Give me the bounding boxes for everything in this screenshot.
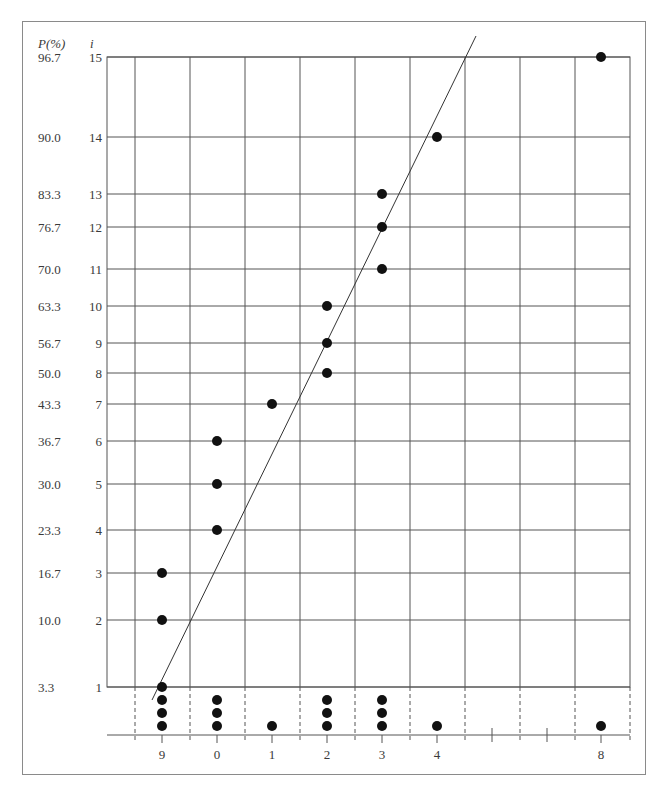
y-tick-label-rank: 11 — [89, 262, 102, 277]
y-tick-label-rank: 10 — [89, 299, 102, 314]
dot-plot-dot — [212, 708, 222, 718]
data-point — [377, 222, 387, 232]
x-tick-label: 3 — [379, 747, 386, 762]
x-tick-label: 9 — [159, 747, 166, 762]
fit-line — [152, 36, 476, 700]
axis-labels: P(%) i 3.3110.0216.7323.3430.0536.7643.3… — [37, 36, 604, 762]
x-tick-label: 8 — [598, 747, 605, 762]
grid-border — [107, 57, 630, 687]
dot-plot-dot — [322, 695, 332, 705]
dot-plot-dot — [322, 721, 332, 731]
data-point — [212, 525, 222, 535]
y-tick-label-rank: 9 — [96, 336, 103, 351]
dot-plot-dot — [377, 708, 387, 718]
dot-plot-dot — [596, 721, 606, 731]
data-point — [212, 479, 222, 489]
y-tick-label-percent: 3.3 — [38, 680, 54, 695]
grid-lines — [107, 57, 630, 687]
data-point — [267, 399, 277, 409]
y-tick-label-percent: 10.0 — [38, 613, 61, 628]
y-tick-label-rank: 6 — [96, 434, 103, 449]
dot-plot-dot — [157, 682, 167, 692]
y-tick-label-rank: 15 — [89, 50, 102, 65]
data-point — [157, 615, 167, 625]
y-tick-label-rank: 7 — [96, 397, 103, 412]
y-tick-label-rank: 8 — [96, 366, 103, 381]
data-point — [596, 52, 606, 62]
fit-line-segment — [152, 36, 476, 700]
y-tick-label-rank: 14 — [89, 130, 103, 145]
x-tick-label: 2 — [324, 747, 331, 762]
y-tick-label-percent: 96.7 — [38, 50, 61, 65]
dot-plot-dot — [377, 721, 387, 731]
data-points — [157, 52, 606, 625]
dot-plot-axis — [107, 728, 630, 743]
y-tick-label-percent: 70.0 — [38, 262, 61, 277]
dot-plot-dot — [157, 708, 167, 718]
y-tick-label-percent: 30.0 — [38, 477, 61, 492]
y-tick-label-percent: 56.7 — [38, 336, 61, 351]
dot-plot-dot — [157, 695, 167, 705]
y-tick-label-percent: 36.7 — [38, 434, 61, 449]
y-axis-title-rank: i — [90, 36, 94, 51]
y-tick-label-rank: 3 — [96, 566, 103, 581]
y-tick-label-percent: 76.7 — [38, 220, 61, 235]
y-tick-label-rank: 4 — [96, 523, 103, 538]
data-point — [377, 189, 387, 199]
data-point — [322, 301, 332, 311]
dot-plot-dot — [432, 721, 442, 731]
y-tick-label-rank: 2 — [96, 613, 103, 628]
x-tick-label: 4 — [434, 747, 441, 762]
y-tick-label-percent: 50.0 — [38, 366, 61, 381]
y-tick-label-percent: 16.7 — [38, 566, 61, 581]
data-point — [377, 264, 387, 274]
y-tick-label-rank: 5 — [96, 477, 103, 492]
dot-plot-dot — [212, 721, 222, 731]
y-tick-label-percent: 90.0 — [38, 130, 61, 145]
dot-plot-dot — [212, 695, 222, 705]
x-tick-label: 0 — [214, 747, 221, 762]
y-tick-label-percent: 43.3 — [38, 397, 61, 412]
data-point — [212, 436, 222, 446]
y-tick-label-rank: 12 — [89, 220, 102, 235]
y-tick-label-percent: 23.3 — [38, 523, 61, 538]
y-tick-label-percent: 63.3 — [38, 299, 61, 314]
y-tick-label-rank: 1 — [96, 680, 103, 695]
probability-plot: P(%) i 3.3110.0216.7323.3430.0536.7643.3… — [0, 0, 667, 800]
x-tick-label: 1 — [269, 747, 276, 762]
data-point — [322, 368, 332, 378]
dot-plot-dot — [267, 721, 277, 731]
dot-plot-dot — [377, 695, 387, 705]
y-tick-label-rank: 13 — [89, 187, 102, 202]
dot-plot-dot — [322, 708, 332, 718]
y-tick-label-percent: 83.3 — [38, 187, 61, 202]
data-point — [322, 338, 332, 348]
dot-plot — [157, 682, 606, 731]
dot-plot-dot — [157, 721, 167, 731]
y-axis-title-percent: P(%) — [37, 36, 65, 51]
data-point — [157, 568, 167, 578]
data-point — [432, 132, 442, 142]
